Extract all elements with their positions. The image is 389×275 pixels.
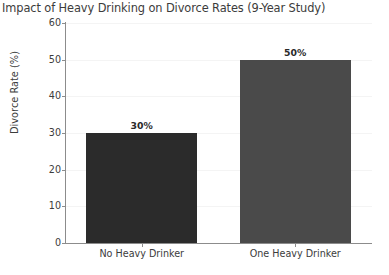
x-axis-tick-label: One Heavy Drinker [225, 248, 365, 260]
bar-no-heavy-drinker[interactable] [86, 133, 197, 243]
x-axis-tick-mark [295, 244, 296, 247]
y-axis-tick-label: 40 [21, 91, 61, 101]
y-axis-tick-labels: 0102030405060 [18, 23, 61, 243]
y-axis-tick-label: 20 [21, 165, 61, 175]
chart-title: Impact of Heavy Drinking on Divorce Rate… [2, 1, 325, 15]
y-axis-tick-label: 0 [21, 238, 61, 248]
y-axis-spine [65, 22, 66, 244]
y-axis-tick-mark [62, 243, 65, 244]
bar-one-heavy-drinker[interactable] [240, 60, 351, 243]
y-axis-tick-mark [62, 23, 65, 24]
chart-figure: Impact of Heavy Drinking on Divorce Rate… [0, 0, 389, 275]
y-axis-tick-mark [62, 60, 65, 61]
y-axis-tick-mark [62, 170, 65, 171]
y-axis-tick-mark [62, 133, 65, 134]
y-axis-tick-mark [62, 96, 65, 97]
x-axis-tick-mark [142, 244, 143, 247]
y-axis-tick-mark [62, 206, 65, 207]
x-axis-tick-label: No Heavy Drinker [72, 248, 212, 260]
y-axis-tick-label: 30 [21, 128, 61, 138]
bar-value-label: 30% [86, 120, 197, 131]
y-axis-tick-label: 50 [21, 55, 61, 65]
plot-area: 30%50% [65, 23, 372, 243]
gridline [65, 23, 372, 24]
y-axis-tick-label: 60 [21, 18, 61, 28]
bar-value-label: 50% [240, 47, 351, 58]
y-axis-tick-label: 10 [21, 201, 61, 211]
x-axis-spine [65, 243, 372, 244]
y-axis-label: Divorce Rate (%) [9, 43, 20, 143]
